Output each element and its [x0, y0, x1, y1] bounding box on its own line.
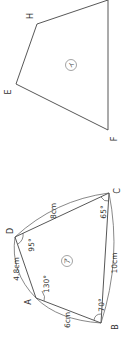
angle-arc-b: [94, 314, 101, 320]
shape-label-i: イ: [67, 62, 74, 68]
side-length-cd: 8cm: [49, 203, 58, 219]
angle-value-d: 95°: [27, 238, 36, 252]
quadrilateral-efgh: E F H イ: [4, 0, 119, 141]
angle-arc-c: [101, 197, 109, 201]
angle-value-a: 130°: [42, 275, 51, 293]
side-length-bc: 10cm: [110, 253, 119, 274]
side-length-ad: 4.8cm: [12, 257, 21, 280]
vertex-label-d: D: [6, 228, 15, 234]
side-length-ab: 6cm: [63, 312, 72, 328]
vertex-label-c: C: [113, 188, 122, 194]
angle-value-c: 65°: [99, 205, 108, 219]
quadrilateral-abcd: A B C D 4.8cm 6cm 10cm 8cm 130° 70° 65° …: [6, 188, 122, 330]
shape-label-a: ア: [63, 258, 70, 264]
vertex-label-f: F: [110, 136, 119, 141]
vertex-label-a: A: [24, 299, 33, 305]
vertex-label-e: E: [4, 89, 13, 94]
angle-value-b: 70°: [97, 298, 106, 312]
geometry-figure: E F H イ A B C D 4.8cm 6cm 10cm 8cm 130° …: [0, 0, 130, 338]
vertex-label-h: H: [26, 13, 35, 19]
vertex-label-b: B: [111, 324, 120, 330]
